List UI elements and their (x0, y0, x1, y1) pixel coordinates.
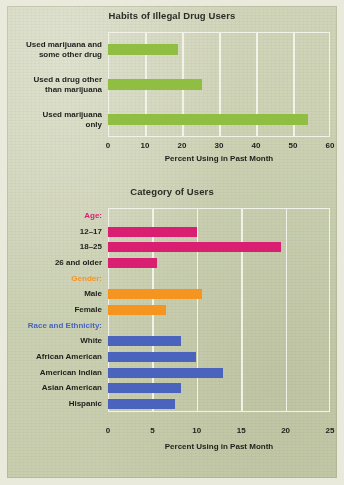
category-label-line: Used marijuana (4, 110, 102, 120)
category-label: 12–17 (4, 227, 102, 237)
x-tick-label: 60 (315, 141, 344, 150)
bar (108, 336, 181, 346)
category-label: Used marijuana andsome other drug (4, 40, 102, 59)
gridline (241, 208, 243, 412)
group-header-label: Age: (4, 211, 102, 220)
category-label: White (4, 336, 102, 346)
x-tick-label: 25 (315, 426, 344, 435)
chart-title-bottom: Category of Users (0, 186, 344, 197)
x-axis-label-bottom: Percent Using in Past Month (108, 442, 330, 451)
x-axis-label-top: Percent Using in Past Month (108, 154, 330, 163)
bar (108, 242, 281, 252)
category-label-line: only (4, 120, 102, 130)
bar (108, 352, 196, 362)
x-tick-label: 50 (278, 141, 308, 150)
bar (108, 368, 223, 378)
x-tick-label: 30 (204, 141, 234, 150)
x-tick-label: 10 (182, 426, 212, 435)
category-label: American Indian (4, 368, 102, 378)
category-label: Used a drug otherthan marijuana (4, 75, 102, 94)
category-label: African American (4, 352, 102, 362)
gridline (286, 208, 288, 412)
x-tick-label: 40 (241, 141, 271, 150)
category-label: 26 and older (4, 258, 102, 268)
x-tick-label: 20 (167, 141, 197, 150)
bar (108, 114, 308, 125)
x-tick-label: 10 (130, 141, 160, 150)
bar (108, 399, 175, 409)
chart-title-top: Habits of Illegal Drug Users (0, 10, 344, 21)
group-header-label: Gender: (4, 274, 102, 283)
x-tick-label: 0 (93, 426, 123, 435)
category-label-line: than marijuana (4, 85, 102, 95)
bar (108, 227, 197, 237)
x-tick-label: 15 (226, 426, 256, 435)
x-tick-label: 20 (271, 426, 301, 435)
x-tick-label: 0 (93, 141, 123, 150)
category-label-line: some other drug (4, 50, 102, 60)
gridline (197, 208, 199, 412)
category-label: Male (4, 289, 102, 299)
bar (108, 258, 157, 268)
category-label-line: Used a drug other (4, 75, 102, 85)
bar (108, 305, 166, 315)
bar (108, 289, 202, 299)
category-label: Female (4, 305, 102, 315)
bar (108, 383, 181, 393)
category-label: 18–25 (4, 242, 102, 252)
bar (108, 44, 178, 55)
category-label: Used marijuanaonly (4, 110, 102, 129)
figure-root: Habits of Illegal Drug Users Used mariju… (0, 0, 344, 485)
bar (108, 79, 202, 90)
group-header-label: Race and Ethnicity: (4, 321, 102, 330)
category-label-line: Used marijuana and (4, 40, 102, 50)
category-label: Asian American (4, 383, 102, 393)
x-tick-label: 5 (137, 426, 167, 435)
category-label: Hispanic (4, 399, 102, 409)
